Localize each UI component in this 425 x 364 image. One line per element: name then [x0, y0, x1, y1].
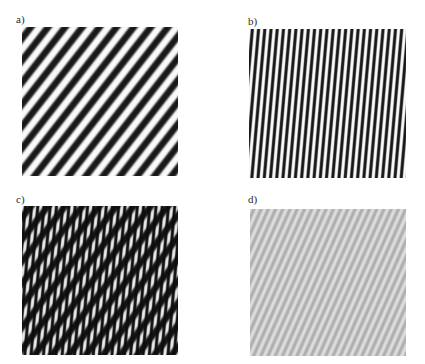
figure-container: a) b) c) d) [0, 0, 425, 364]
panel-a-label: a) [16, 14, 25, 25]
panel-a-image [22, 27, 178, 176]
panel-c-image [22, 206, 178, 355]
panel-d-image [250, 209, 406, 356]
panel-d-label: d) [248, 194, 257, 205]
panel-b-label: b) [248, 16, 257, 27]
panel-b-image [249, 29, 406, 178]
panel-c-label: c) [16, 194, 25, 205]
